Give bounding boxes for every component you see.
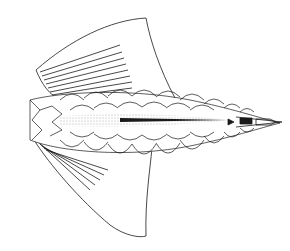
fish-tail-illustration — [0, 0, 290, 251]
lower-fin-lobe — [34, 140, 152, 237]
illustration-svg — [0, 0, 290, 251]
upper-fin-lobe — [36, 18, 175, 100]
